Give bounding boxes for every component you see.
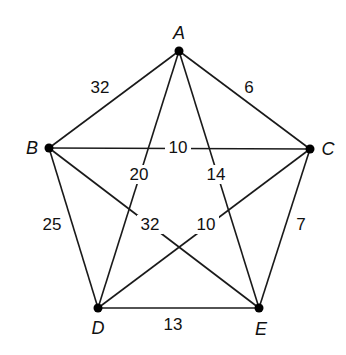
- edge-weight-a-d: 20: [130, 165, 149, 184]
- edge-weight-b-e: 32: [141, 215, 160, 234]
- edge-weight-a-c: 6: [244, 78, 253, 97]
- node-c: [306, 145, 315, 154]
- edge-weight-b-d: 25: [43, 215, 62, 234]
- nodes-layer: ABCDE: [26, 23, 336, 339]
- node-label-c: C: [322, 139, 336, 159]
- node-d: [94, 304, 103, 313]
- edge-weight-d-e: 13: [164, 315, 183, 334]
- weighted-graph-diagram: 326102014321025713 ABCDE: [0, 0, 346, 355]
- node-label-d: D: [92, 318, 105, 338]
- node-a: [175, 47, 184, 56]
- node-e: [255, 304, 264, 313]
- edge-weight-a-b: 32: [91, 78, 110, 97]
- node-label-b: B: [26, 138, 38, 158]
- node-label-e: E: [255, 319, 268, 339]
- edge-weight-a-e: 14: [207, 165, 226, 184]
- edge-a-c: [179, 51, 310, 149]
- edge-weight-b-c: 10: [169, 138, 188, 157]
- edge-weight-c-e: 7: [296, 215, 305, 234]
- edge-a-b: [49, 51, 179, 148]
- edge-weight-c-d: 10: [197, 215, 216, 234]
- node-label-a: A: [172, 23, 185, 43]
- node-b: [45, 144, 54, 153]
- edges-layer: [49, 51, 310, 308]
